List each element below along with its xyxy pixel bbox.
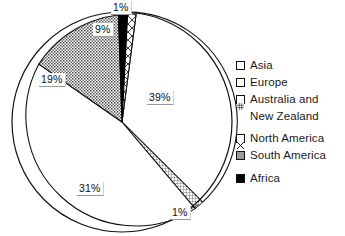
pie-chart-graphic: 39% 31% 1% 9% 19% 1% [0, 0, 240, 236]
pie-chart-figure: 39% 31% 1% 9% 19% 1% Asia Europe Austral… [0, 0, 345, 236]
pie-svg [0, 0, 240, 236]
legend-label-europe: Europe [250, 75, 288, 89]
legend-label-australia-new-zealand: Australia and [250, 92, 318, 106]
legend-item-south-america[interactable]: South America [236, 148, 345, 163]
legend-swatch-north-america-icon [236, 134, 245, 143]
legend-swatch-australia-new-zealand-icon [236, 95, 245, 104]
legend-swatch-south-america-icon [236, 151, 245, 160]
legend-label-asia: Asia [250, 58, 273, 72]
legend: Asia Europe Australia and New Zealand [236, 58, 345, 188]
slice-label-australia-new-zealand: 1% [170, 206, 191, 220]
legend-swatch-europe-icon [236, 78, 245, 87]
crosshatch-pattern-icon [237, 142, 244, 149]
slice-label-africa: 1% [111, 1, 132, 15]
grid-pattern-icon [237, 103, 244, 110]
slice-label-asia: 39% [147, 91, 174, 105]
slice-label-north-america: 9% [93, 23, 114, 37]
legend-item-africa[interactable]: Africa [236, 171, 345, 186]
slice-label-south-america: 19% [39, 73, 66, 87]
legend-swatch-africa-icon [236, 174, 245, 183]
legend-label-north-america: North America [250, 131, 324, 145]
legend-label-australia-new-zealand-line2: New Zealand [250, 109, 319, 123]
legend-label-south-america: South America [250, 148, 326, 162]
legend-item-europe[interactable]: Europe [236, 75, 345, 90]
legend-item-asia[interactable]: Asia [236, 58, 345, 73]
legend-item-australia-new-zealand-line2: New Zealand [236, 109, 345, 123]
legend-item-australia-new-zealand[interactable]: Australia and [236, 92, 345, 107]
legend-item-north-america[interactable]: North America [236, 131, 345, 146]
slice-label-europe: 31% [77, 182, 104, 196]
legend-label-africa: Africa [250, 171, 280, 185]
legend-swatch-asia-icon [236, 61, 245, 70]
